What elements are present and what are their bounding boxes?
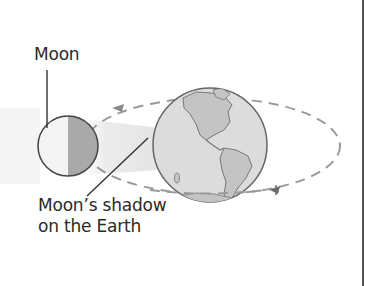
earth — [153, 88, 267, 204]
orbit-arrow-top-icon — [112, 104, 124, 112]
right-border-divider — [362, 0, 364, 286]
moon-shadow-label-line2: on the Earth — [38, 216, 166, 237]
moon-label: Moon — [34, 44, 79, 65]
sunlight-band — [0, 108, 40, 184]
moon-shadow-label: Moon’s shadow on the Earth — [38, 195, 166, 237]
moon-shadow-diagram: Moon Moon’s shadow on the Earth — [0, 0, 365, 286]
orbit-arrow-bottom-icon — [270, 185, 280, 195]
moon-shadow-label-line1: Moon’s shadow — [38, 195, 166, 216]
diagram-canvas — [0, 0, 365, 286]
